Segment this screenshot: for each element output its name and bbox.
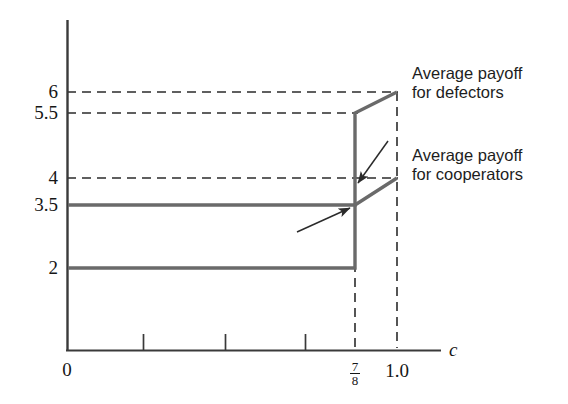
dashed-vertical-guides xyxy=(355,92,397,348)
x-tick-label-one: 1.0 xyxy=(375,361,419,380)
y-tick-label-6: 6 xyxy=(6,82,58,101)
x-tick-label-seven-eighths: 7 8 xyxy=(337,360,373,388)
y-tick-label-5-5: 5.5 xyxy=(6,103,58,122)
fraction-seven-eighths: 7 8 xyxy=(350,360,361,388)
annotation-arrows xyxy=(297,141,388,232)
series-line-cooperators xyxy=(68,178,397,268)
x-tick-label-0: 0 xyxy=(47,360,87,379)
annotation-cooperators-line2: for cooperators xyxy=(412,165,523,184)
fraction-denominator: 8 xyxy=(350,374,361,387)
annotation-defectors-line2: for defectors xyxy=(412,83,522,102)
dashed-horizontal-guides xyxy=(67,92,398,178)
chart-plot-area xyxy=(0,0,568,404)
fraction-numerator: 7 xyxy=(350,360,361,374)
annotation-defectors-line1: Average payoff xyxy=(412,64,522,83)
x-axis-name: c xyxy=(449,340,457,359)
y-tick-label-2: 2 xyxy=(6,258,58,277)
arrow-to-defectors-step xyxy=(358,141,388,183)
annotation-defectors: Average payoff for defectors xyxy=(412,64,522,103)
series-line-defectors xyxy=(68,92,397,205)
annotation-cooperators-line1: Average payoff xyxy=(412,146,523,165)
y-tick-label-4: 4 xyxy=(6,168,58,187)
annotation-cooperators: Average payoff for cooperators xyxy=(412,146,523,185)
payoff-chart-figure: 6 5.5 4 3.5 2 0 7 8 1.0 c Average payoff… xyxy=(0,0,568,404)
y-tick-label-3-5: 3.5 xyxy=(6,195,58,214)
arrow-to-cooperators-step xyxy=(297,208,350,232)
